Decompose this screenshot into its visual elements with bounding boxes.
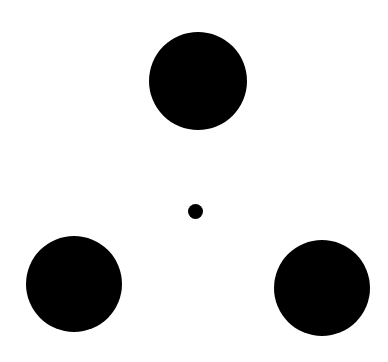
bottom-right-circle bbox=[274, 240, 370, 336]
center-dot bbox=[188, 204, 203, 219]
diagram-canvas bbox=[0, 0, 388, 362]
top-circle bbox=[149, 32, 247, 130]
bottom-left-circle bbox=[26, 236, 122, 332]
